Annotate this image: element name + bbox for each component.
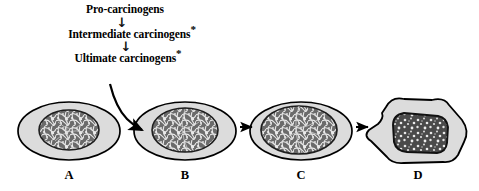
cell-label-a: A — [54, 168, 84, 183]
diagram-canvas — [0, 0, 479, 191]
cell-d-nucleus — [393, 113, 448, 153]
cell-label-c: C — [286, 168, 316, 183]
cell-d-malignant — [366, 98, 466, 163]
cell-b-nucleus — [152, 108, 218, 152]
cell-a-normal — [18, 102, 120, 160]
cell-a-nucleus — [39, 110, 99, 150]
cell-label-d: D — [403, 168, 433, 183]
cell-label-b: B — [170, 168, 200, 183]
cell-c-dysplastic — [250, 102, 352, 160]
cell-b-initiated — [134, 102, 236, 160]
carcinogenesis-diagram: Pro-carcinogens ↓ Intermediate carcinoge… — [0, 0, 479, 191]
